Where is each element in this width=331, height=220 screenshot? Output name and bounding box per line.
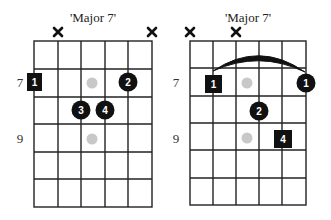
finger-square: 1 [27,73,42,91]
svg-text:2: 2 [125,77,131,88]
chord-title: 'Major 7' [70,10,116,25]
ghost-note-dot [242,133,253,144]
finger-circle: 3 [72,101,91,120]
svg-text:3: 3 [78,105,84,116]
ghost-note-dot [87,78,98,89]
svg-text:1: 1 [211,79,217,90]
fret-number-label: 7 [17,75,24,90]
finger-square: 4 [274,130,292,148]
muted-x-icon [54,28,62,36]
fretboard-grid [34,41,152,207]
finger-circle: 1 [297,74,316,93]
svg-text:1: 1 [32,77,38,88]
fret-number-label: 9 [173,131,180,146]
muted-x-icon [148,28,156,36]
finger-circle: 2 [250,102,269,121]
ghost-note-dot [87,134,98,145]
finger-circle: 2 [119,73,138,92]
muted-x-icon [232,28,240,36]
svg-text:4: 4 [102,105,108,116]
chord-title: 'Major 7' [225,10,271,25]
svg-text:1: 1 [303,78,309,89]
chord-diagram-left: 'Major 7' 7 9 1 [17,10,156,207]
ghost-note-dot [242,78,253,89]
chord-diagrams: 'Major 7' 7 9 1 [0,0,331,220]
svg-text:2: 2 [256,106,262,117]
finger-square: 1 [205,75,222,93]
svg-text:4: 4 [280,134,286,145]
fret-number-label: 7 [173,75,180,90]
finger-circle: 4 [96,101,115,120]
chord-diagram-right: 'Major 7' 7 9 1 1 [173,10,316,205]
fret-number-label: 9 [17,131,24,146]
muted-x-icon [186,28,194,36]
